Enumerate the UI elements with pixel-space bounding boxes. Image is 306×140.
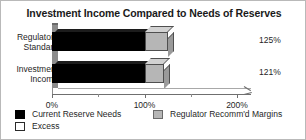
bar-segment-regulator-margins[interactable]: [145, 64, 164, 83]
category-label-regulatory-standard: Regulatory Standard: [4, 33, 58, 52]
x-axis-arrow-icon: [244, 86, 253, 95]
bar-value-label: 125%: [259, 35, 299, 45]
white-swatch-icon: [15, 122, 25, 131]
chart-title: Investment Income Compared to Needs of R…: [1, 7, 306, 19]
x-axis-line: [52, 94, 251, 95]
legend-item-label: Current Reserve Needs: [32, 109, 121, 120]
x-axis-tick-major: [145, 94, 146, 98]
category-label-line2: Standard: [4, 43, 58, 53]
x-axis-tick-major: [237, 94, 238, 98]
category-label-line2: Income: [4, 75, 58, 85]
bar-segment-regulator-margins-side: [164, 64, 170, 89]
x-axis-tick-minor: [98, 94, 99, 97]
x-axis-back-line: [58, 88, 251, 89]
black-swatch-icon: [15, 110, 25, 119]
grey-swatch-icon: [153, 110, 163, 119]
bar-segment-regulator-margins-side: [168, 32, 174, 57]
chart-container: Investment Income Compared to Needs of R…: [0, 0, 306, 140]
legend-item-label: Regulator Recomm'd Margins: [170, 109, 282, 120]
legend-item-label: Excess: [32, 121, 59, 132]
category-label-investment-income: Investment Income: [4, 65, 58, 84]
plot-area: Regulatory Standard Investment Income 12…: [1, 23, 306, 107]
bar-value-label: 121%: [259, 67, 299, 77]
bar-segment-regulator-margins[interactable]: [145, 32, 168, 51]
chart-legend: Current Reserve Needs Excess Regulator R…: [1, 109, 306, 139]
bar-segment-current-reserve-needs[interactable]: [52, 32, 145, 51]
x-axis-tick-minor: [191, 94, 192, 97]
x-axis-tick-major: [52, 94, 53, 98]
bar-segment-current-reserve-needs[interactable]: [52, 64, 145, 83]
chart-back-wall-top-edge: [52, 23, 58, 25]
